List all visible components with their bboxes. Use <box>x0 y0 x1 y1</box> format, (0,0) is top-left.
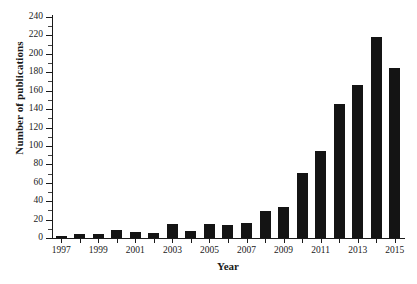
x-axis-tick-label: 2013 <box>337 244 379 257</box>
y-axis-tick-label: 200 <box>29 47 43 60</box>
y-axis-tick-label: 20 <box>34 213 44 226</box>
bar <box>148 233 159 238</box>
x-axis-tick-mark <box>339 239 340 243</box>
bar <box>278 207 289 238</box>
x-axis-tick-label: 2007 <box>226 244 268 257</box>
x-axis-tick-mark <box>376 239 377 243</box>
y-axis-tick-label: 220 <box>29 28 43 41</box>
x-axis-tick-mark <box>172 239 173 243</box>
bar <box>74 234 85 238</box>
x-axis-tick-mark <box>265 239 266 243</box>
x-axis-tick-mark <box>321 239 322 243</box>
x-axis-tick-mark <box>228 239 229 243</box>
bar <box>222 225 233 238</box>
y-axis-tick-label: 140 <box>29 102 43 115</box>
bar-slot <box>348 17 367 238</box>
x-axis-tick-mark <box>191 239 192 243</box>
bar-slot <box>367 17 386 238</box>
y-axis-tick-label: 60 <box>34 176 44 189</box>
bar <box>241 223 252 238</box>
bar-slot <box>311 17 330 238</box>
bar-slot <box>52 17 71 238</box>
bar <box>111 230 122 238</box>
bar <box>185 231 196 238</box>
bar <box>334 104 345 238</box>
bar-slot <box>237 17 256 238</box>
y-axis-title: Number of publications <box>10 0 28 218</box>
bar <box>260 211 271 238</box>
x-axis-tick-mark <box>284 239 285 243</box>
y-axis-tick-label: 240 <box>29 10 43 23</box>
x-axis-tick-mark <box>154 239 155 243</box>
x-axis-tick-label: 2009 <box>263 244 305 257</box>
bar-slot <box>126 17 145 238</box>
bar-slot <box>182 17 201 238</box>
x-axis-tick-mark <box>117 239 118 243</box>
plot-area <box>52 17 404 238</box>
x-axis-tick-mark <box>358 239 359 243</box>
y-axis-tick-mark <box>46 238 52 239</box>
bar <box>204 224 215 238</box>
x-axis-tick-label: 1999 <box>77 244 119 257</box>
bar-slot <box>200 17 219 238</box>
y-axis-tick-label: 120 <box>29 121 43 134</box>
bar <box>389 68 400 238</box>
bar-slot <box>71 17 90 238</box>
bar <box>93 234 104 238</box>
y-axis-tick-label: 100 <box>29 139 43 152</box>
bar <box>371 37 382 238</box>
x-axis-tick-mark <box>80 239 81 243</box>
x-axis-tick-label: 2003 <box>151 244 193 257</box>
x-axis-tick-mark <box>98 239 99 243</box>
x-axis-tick-mark <box>302 239 303 243</box>
bar-slot <box>145 17 164 238</box>
x-axis-tick-label: 2001 <box>114 244 156 257</box>
x-axis-tick-mark <box>61 239 62 243</box>
x-axis-tick-mark <box>135 239 136 243</box>
bar <box>130 232 141 238</box>
x-axis-title: Year <box>52 259 404 273</box>
bar-slot <box>293 17 312 238</box>
bar-slot <box>219 17 238 238</box>
x-axis-tick-label: 1997 <box>40 244 82 257</box>
x-axis-tick-mark <box>209 239 210 243</box>
x-axis-tick-label: 2011 <box>300 244 342 257</box>
bar-slot <box>385 17 404 238</box>
y-axis-tick-label: 0 <box>38 231 43 244</box>
y-axis-tick-label: 180 <box>29 65 43 78</box>
bar <box>315 151 326 238</box>
bar-slot <box>163 17 182 238</box>
publications-bar-chart: Number of publications 02040608010012014… <box>0 0 417 284</box>
bar <box>297 173 308 238</box>
x-axis-tick-mark <box>395 239 396 243</box>
bar-slot <box>89 17 108 238</box>
x-axis-tick-label: 2015 <box>374 244 416 257</box>
bar <box>56 236 67 238</box>
y-axis-tick-label: 160 <box>29 84 43 97</box>
bar-slot <box>330 17 349 238</box>
bar <box>167 224 178 238</box>
bar-slot <box>274 17 293 238</box>
bar-slot <box>108 17 127 238</box>
x-axis-tick-label: 2005 <box>188 244 230 257</box>
bar <box>352 85 363 238</box>
x-axis-tick-mark <box>247 239 248 243</box>
y-axis-tick-label: 40 <box>34 194 44 207</box>
bar-slot <box>256 17 275 238</box>
y-axis-tick-label: 80 <box>34 157 44 170</box>
